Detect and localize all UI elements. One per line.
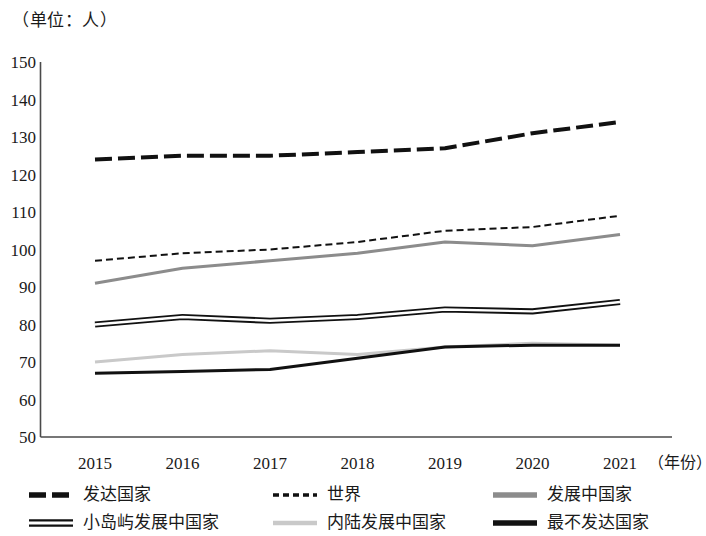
series-line [95, 235, 620, 284]
series-layer [95, 122, 620, 373]
legend-item-label: 发达国家 [83, 486, 151, 503]
plot-area [0, 50, 706, 450]
x-axis-title: （年份） [648, 455, 706, 471]
legend-swatch-icon [28, 488, 74, 502]
legend-swatch [492, 488, 538, 502]
legend-swatch [492, 516, 538, 530]
legend-item[interactable]: 内陆发展中国家 [272, 514, 446, 531]
legend-item-label: 内陆发展中国家 [327, 514, 446, 531]
chart-root: （单位：人） 1501401301201101009080706050 2015… [0, 0, 706, 536]
legend-swatch [272, 488, 318, 502]
chart-legend: 发达国家世界发展中国家小岛屿发展中国家内陆发展中国家最不发达国家 [0, 484, 706, 536]
x-tick-label: 2015 [78, 455, 112, 472]
x-tick-label: 2017 [253, 455, 287, 472]
chart-svg [0, 50, 706, 450]
series-line [95, 345, 620, 373]
legend-swatch [28, 488, 74, 502]
legend-swatch-icon [272, 488, 318, 502]
x-tick-label: 2016 [166, 455, 200, 472]
x-tick-label: 2018 [341, 455, 375, 472]
legend-swatch [28, 516, 74, 530]
x-tick-label: 2020 [516, 455, 550, 472]
legend-swatch-icon [492, 516, 538, 530]
legend-swatch-icon [28, 516, 74, 530]
legend-item-label: 小岛屿发展中国家 [83, 514, 219, 531]
legend-item[interactable]: 发达国家 [28, 486, 151, 503]
legend-item-label: 最不发达国家 [547, 514, 649, 531]
y-axis-unit-caption: （单位：人） [12, 6, 117, 31]
series-line [95, 122, 620, 160]
legend-swatch-icon [272, 516, 318, 530]
legend-item[interactable]: 最不发达国家 [492, 514, 649, 531]
legend-item-label: 发展中国家 [547, 486, 632, 503]
legend-item-label: 世界 [327, 486, 361, 503]
series-line-outline [95, 302, 620, 325]
legend-item[interactable]: 小岛屿发展中国家 [28, 514, 219, 531]
legend-swatch [272, 516, 318, 530]
x-tick-label: 2021 [603, 455, 637, 472]
legend-swatch-icon [492, 488, 538, 502]
x-tick-label: 2019 [428, 455, 462, 472]
legend-item[interactable]: 世界 [272, 486, 361, 503]
legend-item[interactable]: 发展中国家 [492, 486, 632, 503]
